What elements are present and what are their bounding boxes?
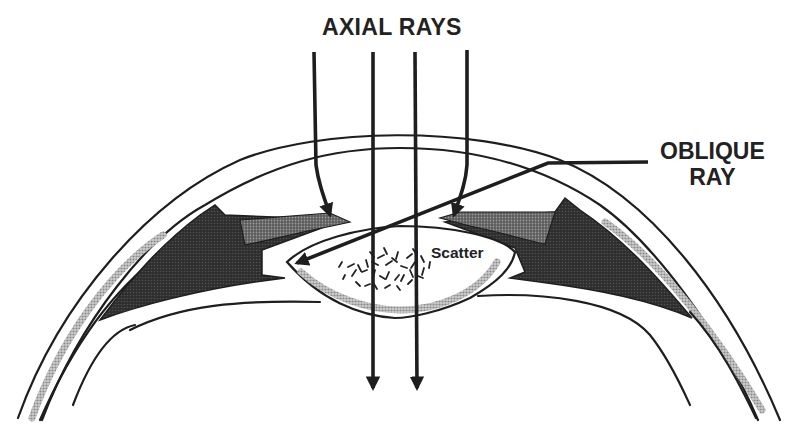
oblique-ray-label: OBLIQUE RAY [660, 138, 765, 190]
eye-diagram: AXIAL RAYS OBLIQUE RAY Scatter [0, 0, 794, 435]
axial-ray-4 [454, 50, 467, 215]
eye-diagram-svg [0, 0, 794, 435]
lens-support-right [478, 295, 690, 405]
axial-ray-3 [415, 52, 417, 388]
lens-support-left [130, 302, 320, 330]
oblique-ray-label-line2: RAY [660, 164, 765, 190]
scatter-label: Scatter [431, 245, 484, 261]
axial-ray-1 [314, 52, 330, 215]
sclera-inner-right [690, 312, 756, 418]
lens [287, 226, 515, 318]
sclera-band-left [32, 235, 163, 418]
axial-rays-label: AXIAL RAYS [322, 16, 462, 39]
oblique-ray-label-line1: OBLIQUE [660, 138, 765, 164]
